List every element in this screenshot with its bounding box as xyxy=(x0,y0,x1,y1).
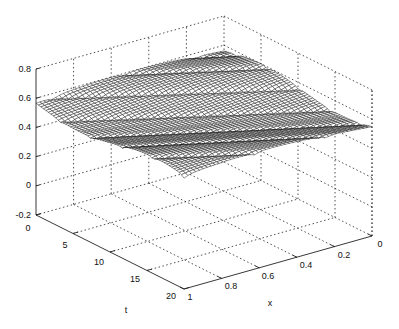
z-tick-0: 0 xyxy=(26,180,31,190)
t-tick-15: 15 xyxy=(130,274,140,284)
x-tick-0.2: 0.2 xyxy=(338,250,351,260)
x-tick-0.8: 0.8 xyxy=(225,281,238,291)
x-axis-ticks: 1 0.8 0.6 0.4 0.2 0 x xyxy=(187,239,382,308)
t-tick-10: 10 xyxy=(94,257,104,267)
x-tick-0.4: 0.4 xyxy=(300,260,313,270)
z-tick-0.4: 0.4 xyxy=(18,122,31,132)
t-tick-5: 5 xyxy=(62,240,67,250)
z-tick-0.2: 0.2 xyxy=(18,151,31,161)
z-tick-0.6: 0.6 xyxy=(18,93,31,103)
t-axis-ticks: 0 5 10 15 20 t xyxy=(25,223,176,315)
x-axis-label: x xyxy=(268,298,273,308)
surface-mesh xyxy=(36,51,372,178)
t-tick-20: 20 xyxy=(166,291,176,301)
surface-plot: 0.8 0.6 0.4 0.2 0 -0.2 0 5 10 15 20 t 1 … xyxy=(0,0,399,329)
z-axis-ticks: 0.8 0.6 0.4 0.2 0 -0.2 xyxy=(15,64,31,220)
t-tick-0: 0 xyxy=(25,223,30,233)
x-tick-0: 0 xyxy=(377,239,382,249)
z-tick-0.8: 0.8 xyxy=(18,64,31,74)
x-tick-0.6: 0.6 xyxy=(262,271,275,281)
x-tick-1: 1 xyxy=(187,292,192,302)
t-axis-label: t xyxy=(125,305,128,315)
z-tick-neg0.2: -0.2 xyxy=(15,210,31,220)
